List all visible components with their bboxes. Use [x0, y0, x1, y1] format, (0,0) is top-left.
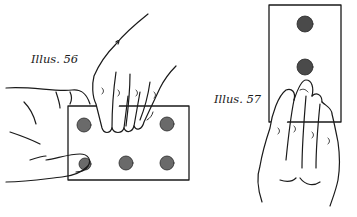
caption-illus-56: Illus. 56: [31, 52, 78, 66]
line-art: [0, 0, 357, 217]
caption-illus-57: Illus. 57: [214, 92, 261, 106]
illus-56-drawing: [6, 14, 189, 182]
illus-57-drawing: [258, 5, 341, 206]
illustration-page: Illus. 56 Illus. 57: [0, 0, 357, 217]
